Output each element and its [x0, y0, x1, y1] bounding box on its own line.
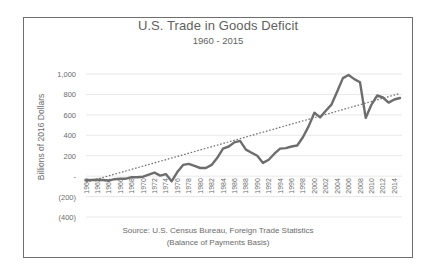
source-note: Source: U.S. Census Bureau, Foreign Trad… — [0, 226, 436, 235]
source-note-basis: (Balance of Payments Basis) — [0, 238, 436, 247]
x-tick-label: 1980 — [197, 178, 204, 194]
x-tick-label: 2002 — [322, 178, 329, 194]
x-axis-ticks: 1960196219641966196819701972197419761978… — [83, 178, 398, 194]
x-tick-label: 1966 — [117, 178, 124, 194]
y-axis-ticks: 1,000800600400200-(200)(400) — [57, 70, 76, 222]
y-tick-label: (200) — [58, 193, 76, 202]
x-tick-label: 1984 — [220, 178, 227, 194]
x-tick-label: 1968 — [128, 178, 135, 194]
x-tick-label: 2010 — [368, 178, 375, 194]
x-tick-label: 2008 — [357, 178, 364, 194]
y-tick-label: 200 — [63, 152, 76, 161]
x-tick-label: 1970 — [140, 178, 147, 194]
deficit-line — [86, 75, 400, 181]
x-tick-label: 2014 — [391, 178, 398, 194]
x-tick-label: 2000 — [311, 178, 318, 194]
x-tick-label: 1992 — [265, 178, 272, 194]
y-tick-label: - — [74, 172, 77, 181]
x-tick-label: 1976 — [174, 178, 181, 194]
x-tick-label: 1974 — [162, 178, 169, 194]
x-tick-label: 2004 — [334, 178, 341, 194]
y-tick-label: (400) — [58, 213, 76, 222]
x-tick-label: 1994 — [277, 178, 284, 194]
y-tick-label: 400 — [63, 131, 76, 140]
trend-line — [86, 93, 400, 182]
x-tick-label: 1990 — [254, 178, 261, 194]
x-tick-label: 1982 — [208, 178, 215, 194]
x-tick-label: 1986 — [231, 178, 238, 194]
x-tick-label: 1988 — [242, 178, 249, 194]
x-tick-label: 1996 — [288, 178, 295, 194]
y-tick-label: 600 — [63, 111, 76, 120]
y-tick-label: 800 — [63, 90, 76, 99]
x-tick-label: 1998 — [299, 178, 306, 194]
x-tick-label: 1972 — [151, 178, 158, 194]
y-tick-label: 1,000 — [57, 70, 76, 79]
x-tick-label: 2012 — [379, 178, 386, 194]
x-tick-label: 2006 — [345, 178, 352, 194]
x-tick-label: 1978 — [185, 178, 192, 194]
